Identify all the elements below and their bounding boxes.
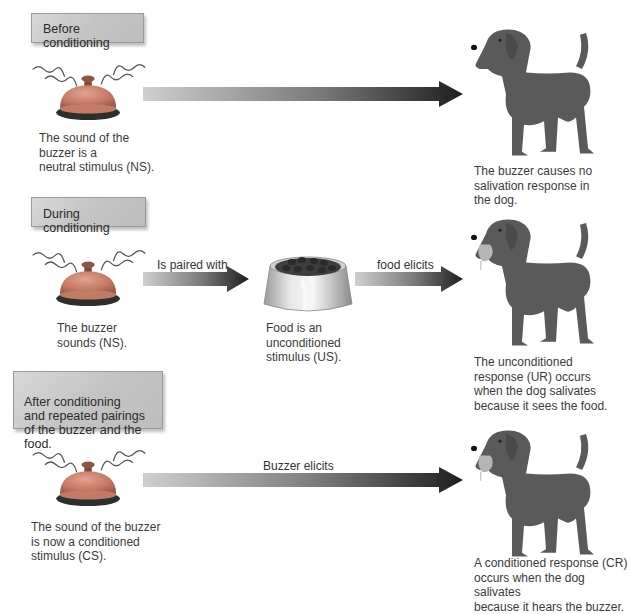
dog-salivating-icon [466,214,596,349]
panel-before-heading: Before conditioning [31,13,144,43]
response-caption: The unconditioned response (UR) occurs w… [474,355,607,413]
buzzer-bell-icon [28,58,150,124]
stimulus-caption: The sound of the buzzer is now a conditi… [31,520,160,564]
dog-conditioned-salivating-icon [466,425,596,560]
food-caption: Food is an unconditioned stimulus (US). [266,321,341,365]
panel-after-heading: After conditioning and repeated pairings… [13,371,163,429]
stimulus-caption: The buzzer sounds (NS). [57,321,127,350]
buzzer-bell-icon [28,244,150,310]
heading-text: After conditioning and repeated pairings… [24,395,145,451]
dog-neutral-icon [466,24,596,159]
response-caption: A conditioned response (CR) occurs when … [474,556,630,614]
arrow-icon [143,81,463,107]
food-arrow-icon [355,266,463,292]
buzzer-bell-icon [28,444,150,510]
response-caption: The buzzer causes no salivation response… [474,164,592,208]
heading-text: Before conditioning [43,22,110,50]
food-bowl-icon [262,252,354,316]
pairing-arrow-icon [143,266,249,292]
heading-text: During conditioning [43,207,110,235]
buzzer-arrow-icon [143,467,463,493]
stimulus-caption: The sound of the buzzer is a neutral sti… [39,131,154,175]
panel-during-heading: During conditioning [31,197,146,227]
